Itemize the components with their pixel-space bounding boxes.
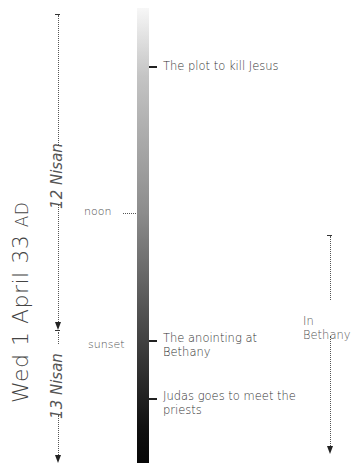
day-12-nisan-arrow-icon bbox=[55, 322, 61, 330]
event-label-line1: The anointing at bbox=[163, 331, 257, 345]
bethany-line-bottom bbox=[330, 336, 331, 446]
era-label: AD bbox=[12, 202, 32, 228]
day-12-nisan-line-top bbox=[58, 15, 59, 145]
day-13-nisan-line-top bbox=[58, 332, 59, 344]
day-12-nisan-label: 12 Nisan bbox=[48, 141, 66, 211]
event-label-line2: Bethany bbox=[163, 345, 257, 359]
noon-label: noon bbox=[84, 205, 111, 218]
noon-marker-line bbox=[123, 213, 136, 214]
event-label-line1: Judas goes to meet the bbox=[163, 389, 296, 403]
event-label: The plot to kill Jesus bbox=[163, 59, 279, 73]
bethany-line-top bbox=[330, 236, 331, 300]
day-13-nisan-label: 13 Nisan bbox=[48, 351, 66, 421]
event-judas-meets-priests: Judas goes to meet the priests bbox=[163, 389, 296, 417]
day-13-nisan-arrow-icon bbox=[55, 455, 61, 463]
date-title: Wed 1 April 33 AD bbox=[8, 202, 33, 403]
event-anointing-at-bethany: The anointing at Bethany bbox=[163, 331, 257, 359]
bethany-arrow-icon bbox=[327, 446, 333, 454]
day-12-nisan-line-bottom bbox=[58, 205, 59, 322]
event-tick-anointing bbox=[149, 340, 157, 342]
timeline-bar bbox=[137, 8, 149, 463]
day-13-nisan-line-bottom bbox=[58, 415, 59, 455]
sunset-label: sunset bbox=[88, 338, 125, 351]
date-text: Wed 1 April 33 bbox=[8, 235, 33, 403]
event-tick-judas bbox=[149, 398, 157, 400]
event-tick-plot bbox=[149, 66, 157, 68]
event-label-line2: priests bbox=[163, 403, 296, 417]
in-bethany-label: In Bethany bbox=[303, 314, 364, 342]
event-plot-to-kill-jesus: The plot to kill Jesus bbox=[163, 59, 279, 73]
day-boundary-tick bbox=[55, 330, 60, 331]
